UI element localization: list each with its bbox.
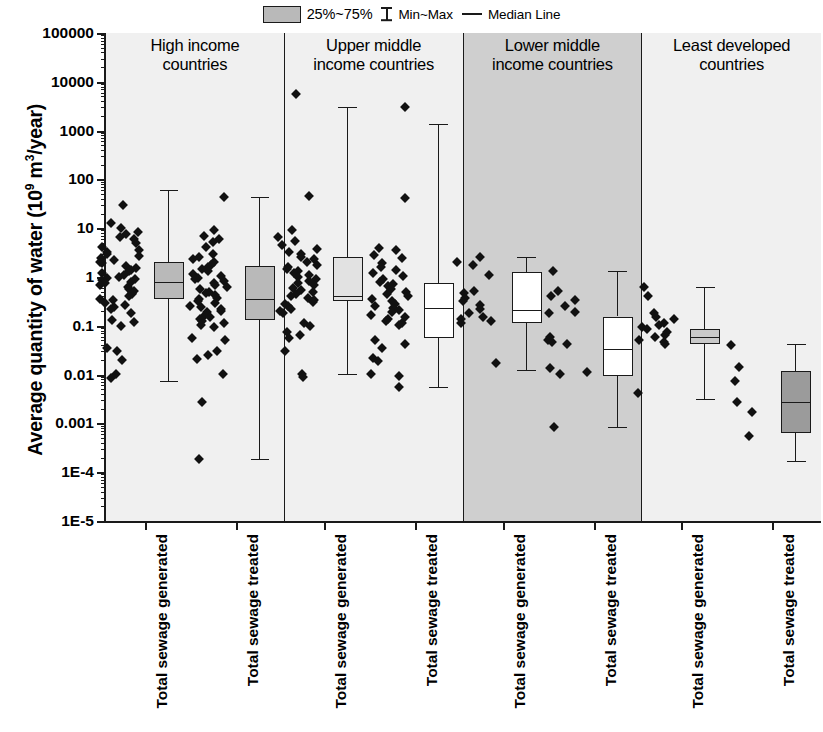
upper-whisker — [526, 257, 527, 273]
upper-whisker — [168, 190, 169, 262]
y-tick-label: 1000 — [60, 122, 94, 140]
legend-label-minmax: Min~Max — [398, 7, 452, 22]
y-tick-label: 100 — [68, 170, 94, 188]
min-cap — [696, 399, 715, 400]
chart-figure: 25%~75% Min~Max Median Line Average quan… — [0, 0, 823, 732]
lower-whisker — [347, 301, 348, 373]
y-tick-label: 10000 — [51, 73, 94, 91]
box-swatch-icon — [263, 6, 301, 23]
max-cap — [429, 124, 448, 125]
x-axis-tick — [324, 521, 326, 530]
y-tick-label: 1 — [85, 268, 94, 286]
legend-label-box: 25%~75% — [307, 6, 373, 22]
legend-item-median: Median Line — [462, 7, 560, 22]
x-tick-label: Total sewage generated — [332, 534, 350, 709]
minmax-whisker-icon — [381, 6, 392, 22]
min-cap — [517, 370, 536, 371]
panel-title: Upper middleincome countries — [285, 36, 463, 74]
lower-whisker — [617, 376, 618, 427]
x-tick-label: Total sewage generated — [511, 534, 529, 709]
upper-whisker — [259, 197, 260, 266]
y-tick-label: 1E-5 — [61, 512, 94, 530]
lower-whisker — [704, 344, 705, 399]
panel-title: High incomecountries — [106, 36, 284, 74]
x-axis-tick — [236, 521, 238, 530]
interquartile-box — [603, 317, 633, 376]
x-axis-tick — [681, 521, 683, 530]
x-tick-label: Total sewage treated — [244, 534, 262, 686]
min-cap — [338, 374, 357, 375]
x-axis-tick — [772, 521, 774, 530]
upper-whisker — [347, 107, 348, 256]
max-cap — [517, 257, 536, 258]
upper-whisker — [438, 124, 439, 283]
y-tick-label: 0.001 — [55, 414, 94, 432]
lower-whisker — [795, 433, 796, 461]
min-cap — [160, 381, 179, 382]
max-cap — [338, 107, 357, 108]
interquartile-box — [424, 283, 454, 338]
min-cap — [608, 427, 627, 428]
x-axis-tick — [503, 521, 505, 530]
upper-whisker — [617, 271, 618, 317]
x-tick-label: Total sewage generated — [153, 534, 171, 709]
x-tick-label: Total sewage treated — [423, 534, 441, 686]
median-line-icon — [462, 13, 482, 15]
lower-whisker — [438, 338, 439, 387]
y-tick-label: 10 — [77, 219, 94, 237]
y-tick-label: 1E-4 — [61, 463, 94, 481]
median-line — [245, 299, 275, 300]
lower-whisker — [259, 320, 260, 458]
y-axis-tick-labels: 1000001000010001001010.10.010.0011E-41E-… — [0, 0, 104, 732]
chart-legend: 25%~75% Min~Max Median Line — [0, 2, 823, 26]
panel-title: Least developedcountries — [642, 36, 821, 74]
interquartile-box — [245, 266, 275, 320]
x-axis-tick — [415, 521, 417, 530]
median-line — [154, 282, 184, 283]
interquartile-box — [333, 257, 363, 301]
legend-item-minmax: Min~Max — [381, 6, 452, 22]
min-cap — [787, 461, 806, 462]
min-cap — [251, 459, 270, 460]
x-tick-label: Total sewage treated — [602, 534, 620, 686]
max-cap — [787, 344, 806, 345]
lower-whisker — [526, 323, 527, 370]
panel-title: Lower middleincome countries — [464, 36, 642, 74]
x-axis-tick — [145, 521, 147, 530]
y-tick-label: 100000 — [42, 24, 94, 42]
y-tick-label: 0.01 — [64, 366, 94, 384]
x-tick-label: Total sewage generated — [689, 534, 707, 709]
median-line — [333, 296, 363, 297]
x-tick-label: Total sewage treated — [780, 534, 798, 686]
lower-whisker — [168, 299, 169, 380]
legend-label-median: Median Line — [488, 7, 560, 22]
max-cap — [608, 271, 627, 272]
x-axis-tick — [594, 521, 596, 530]
upper-whisker — [795, 344, 796, 371]
median-line — [781, 402, 811, 403]
x-axis-ticks — [104, 521, 823, 531]
median-line — [690, 337, 720, 338]
min-cap — [429, 387, 448, 388]
interquartile-box — [512, 272, 542, 323]
y-tick-label: 0.1 — [72, 317, 94, 335]
legend-item-box: 25%~75% — [263, 6, 373, 23]
plot-area: High incomecountriesUpper middleincome c… — [104, 33, 821, 523]
chart-panel: Least developedcountries — [642, 33, 821, 521]
median-line — [603, 349, 633, 350]
median-line — [512, 310, 542, 311]
median-line — [424, 308, 454, 309]
max-cap — [251, 197, 270, 198]
upper-whisker — [704, 287, 705, 329]
max-cap — [160, 190, 179, 191]
max-cap — [696, 287, 715, 288]
